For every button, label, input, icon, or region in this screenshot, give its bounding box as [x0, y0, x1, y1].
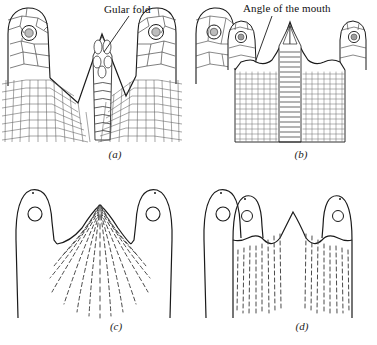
panel-a-right-tympanum-inner	[152, 28, 160, 36]
figure-illustration	[0, 0, 377, 345]
panel-a-left-tympanum-inner	[25, 29, 33, 37]
panel-d-right-nostril-dot	[339, 198, 341, 200]
panel-c-right-nostril-dot	[154, 192, 156, 194]
panel-c-left-nostril-dot	[32, 192, 34, 194]
panel-caption-c: (c)	[96, 320, 136, 332]
panel-b-left-tympanum-inner	[238, 34, 244, 40]
panel-d-right-tympanum	[333, 211, 344, 222]
panel-d-far-left-tympanum	[216, 207, 230, 221]
panel-b-central-ladder	[279, 24, 301, 142]
panel-a-central-ladder	[93, 36, 112, 140]
panel-b-right-lobe-outline	[340, 21, 366, 70]
panel-a-right-lobe-outline	[136, 8, 176, 84]
panel-d-left-tympanum	[242, 211, 253, 222]
panel-c-left-tympanum	[28, 207, 42, 221]
panel-caption-b: (b)	[281, 148, 321, 160]
panel-c-right-tympanum	[146, 207, 160, 221]
panel-caption-d: (d)	[282, 320, 322, 332]
figure-background	[0, 0, 377, 345]
panel-b-far-left-tympanum-inner	[210, 28, 218, 36]
label-angle-of-the-mouth: Angle of the mouth	[243, 2, 331, 14]
panel-b-right-tympanum-inner	[351, 34, 357, 40]
panel-a-left-lobe-outline	[8, 8, 50, 86]
panel-d-left-nostril-dot	[244, 198, 246, 200]
label-gular-fold: Gular fold	[104, 3, 151, 15]
panel-caption-a: (a)	[95, 148, 135, 160]
panel-d-far-left-nostril-dot	[220, 192, 222, 194]
